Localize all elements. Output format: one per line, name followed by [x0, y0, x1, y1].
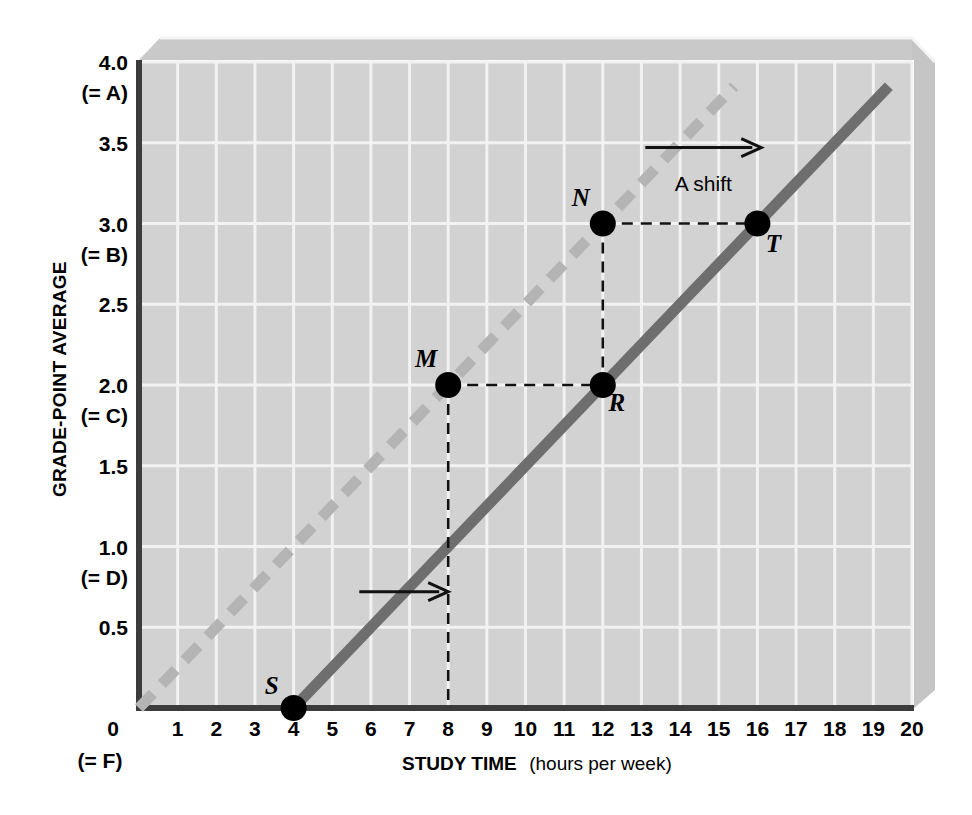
x-origin-sublabel: (= F): [78, 749, 123, 772]
panel-right-bevel: [912, 38, 935, 710]
y-tick-sublabel: (= B): [81, 243, 128, 266]
y-tick-label: 1.0: [99, 536, 128, 559]
chart-figure: A shift SMRNT 0.51.0(= D)1.52.0(= C)2.53…: [0, 0, 972, 815]
point-label-M: M: [414, 345, 438, 372]
x-tick-label: 3: [249, 717, 261, 740]
x-axis-title: STUDY TIME (hours per week): [402, 753, 672, 774]
x-tick-label: 8: [442, 717, 454, 740]
x-tick-label: 20: [900, 717, 923, 740]
x-tick-label: 15: [707, 717, 731, 740]
x-tick-label: 11: [553, 717, 576, 740]
y-tick-label: 0.5: [99, 616, 129, 639]
data-point-N[interactable]: [590, 211, 616, 237]
y-tick-sublabel: (= D): [81, 566, 128, 589]
x-tick-label: 5: [326, 717, 338, 740]
y-tick-label: 2.0: [99, 374, 128, 397]
x-tick-label: 4: [288, 717, 300, 740]
y-tick-label: 3.0: [99, 213, 128, 236]
data-point-M[interactable]: [435, 372, 461, 398]
shift-arrow-upper-label: A shift: [675, 172, 732, 195]
x-tick-label: 10: [514, 717, 537, 740]
y-tick-label: 1.5: [99, 455, 129, 478]
point-label-T: T: [766, 230, 783, 257]
y-tick-label: 4.0: [99, 51, 128, 74]
y-axis-title: GRADE-POINT AVERAGE: [49, 261, 70, 497]
y-axis-tick-labels: 0.51.0(= D)1.52.0(= C)2.53.0(= B)3.54.0(…: [81, 51, 129, 639]
x-tick-label: 18: [823, 717, 847, 740]
y-tick-label: 3.5: [99, 132, 129, 155]
x-tick-label: 14: [668, 717, 692, 740]
x-tick-label: 9: [481, 717, 493, 740]
point-label-N: N: [571, 184, 591, 211]
x-axis-tick-labels: 1234567891011121314151617181920: [172, 717, 924, 740]
y-tick-sublabel: (= A): [82, 81, 128, 104]
x-axis-title-sub: (hours per week): [529, 753, 672, 774]
x-tick-label: 16: [746, 717, 769, 740]
x-tick-label: 6: [365, 717, 377, 740]
y-tick-label: 2.5: [99, 293, 129, 316]
x-axis-title-main: STUDY TIME: [402, 753, 517, 774]
x-tick-label: 19: [862, 717, 885, 740]
x-tick-label: 12: [591, 717, 614, 740]
panel-top-bevel: [137, 38, 935, 62]
x-tick-label: 17: [784, 717, 807, 740]
x-tick-label: 7: [404, 717, 416, 740]
point-label-S: S: [265, 672, 279, 699]
grade-point-average-vs-study-time-chart: A shift SMRNT 0.51.0(= D)1.52.0(= C)2.53…: [0, 0, 972, 815]
point-label-R: R: [607, 389, 625, 416]
x-tick-label: 1: [172, 717, 184, 740]
y-tick-sublabel: (= C): [81, 404, 128, 427]
x-tick-label: 2: [210, 717, 222, 740]
x-tick-label: 13: [630, 717, 653, 740]
x-origin-tick-label: 0: [107, 717, 119, 740]
